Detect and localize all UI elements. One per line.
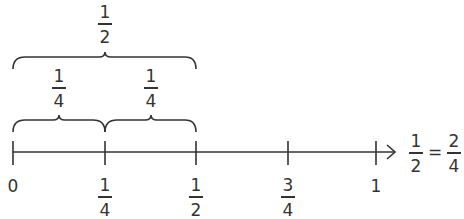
lower-brace-right [105, 115, 196, 132]
denominator: 4 [449, 157, 460, 175]
fraction-bar [409, 152, 423, 154]
numerator: 1 [100, 3, 111, 21]
numerator: 1 [411, 132, 422, 150]
top-brace-label: 1 2 [98, 3, 112, 46]
numerator: 1 [146, 67, 157, 85]
fraction-bar [98, 196, 112, 198]
lower-brace-left-label: 1 4 [52, 67, 66, 110]
top-brace [13, 52, 196, 69]
fraction-bar [98, 23, 112, 25]
equation-left-fraction: 1 2 [409, 132, 423, 175]
equation-right-fraction: 2 4 [447, 132, 461, 175]
tick-label-1-4: 1 4 [98, 176, 112, 218]
fraction-bar [52, 87, 66, 89]
equals-sign: = [428, 142, 442, 162]
numerator: 3 [283, 176, 294, 194]
fraction-bar [447, 152, 461, 154]
fraction-bar [281, 196, 295, 198]
denominator: 2 [100, 28, 111, 46]
lower-brace-right-label: 1 4 [144, 67, 158, 110]
lower-brace-left [13, 115, 105, 132]
tick-label-1: 1 [371, 176, 382, 196]
denominator: 4 [54, 92, 65, 110]
numerator: 1 [191, 176, 202, 194]
fraction-bar [144, 87, 158, 89]
tick-label-1-2: 1 2 [189, 176, 203, 218]
denominator: 2 [191, 201, 202, 219]
number-line-drawing [0, 0, 464, 218]
denominator: 2 [411, 157, 422, 175]
numerator: 1 [54, 67, 65, 85]
tick-label-3-4: 3 4 [281, 176, 295, 218]
denominator: 4 [146, 92, 157, 110]
numerator: 1 [100, 176, 111, 194]
tick-label-0: 0 [8, 176, 19, 196]
numerator: 2 [449, 132, 460, 150]
denominator: 4 [100, 201, 111, 219]
denominator: 4 [283, 201, 294, 219]
fraction-bar [189, 196, 203, 198]
